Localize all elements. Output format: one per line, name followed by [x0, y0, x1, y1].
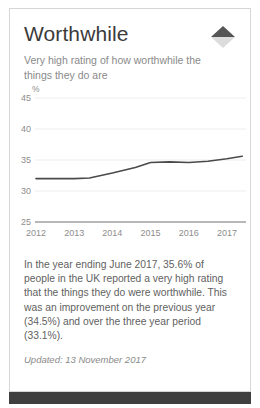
card-body-text: In the year ending June 2017, 35.6% of p…: [24, 258, 236, 343]
x-axis-tick-label: 2017: [217, 228, 237, 238]
worthwhile-indicator-card: Worthwhile Very high rating of how worth…: [9, 8, 251, 392]
chart-canvas: 2530354045201220132014201520162017: [10, 86, 252, 254]
worthwhile-line-chart: % 2530354045201220132014201520162017: [10, 86, 250, 254]
y-axis-tick-label: 45: [21, 93, 31, 103]
y-axis-unit-label: %: [32, 84, 40, 94]
y-axis-tick-label: 40: [21, 124, 31, 134]
page-title: Worthwhile: [24, 22, 236, 46]
bottom-accent-bar: [9, 392, 251, 404]
x-axis-tick-label: 2013: [64, 228, 84, 238]
trend-up-down-arrow-icon[interactable]: [208, 23, 238, 51]
x-axis-tick-label: 2012: [26, 228, 46, 238]
y-axis-tick-label: 35: [21, 155, 31, 165]
x-axis-tick-label: 2016: [179, 228, 199, 238]
screenshot-root: Worthwhile Very high rating of how worth…: [0, 0, 260, 408]
updated-timestamp: Updated: 13 November 2017: [24, 354, 236, 365]
card-header: Worthwhile Very high rating of how worth…: [10, 9, 250, 82]
y-axis-tick-label: 25: [21, 217, 31, 227]
y-axis-tick-label: 30: [21, 186, 31, 196]
card-subtitle: Very high rating of how worthwhile the t…: [24, 53, 204, 82]
x-axis-tick-label: 2015: [141, 228, 161, 238]
x-axis-tick-label: 2014: [102, 228, 122, 238]
